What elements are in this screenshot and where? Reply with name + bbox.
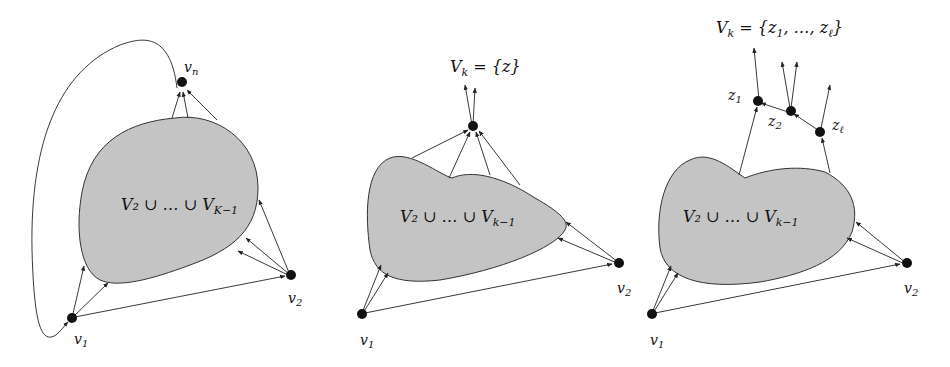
panel-2: Vk = {z} V₂ ∪ … ∪ Vk−1 v1 v2 bbox=[357, 57, 631, 350]
label-v2: v2 bbox=[904, 280, 918, 298]
label-vn: vn bbox=[184, 59, 198, 77]
label-z2: z2 bbox=[767, 113, 782, 131]
label-v1: v1 bbox=[650, 332, 664, 350]
node-v1 bbox=[647, 309, 657, 319]
node-vn bbox=[177, 77, 187, 87]
node-v2 bbox=[614, 258, 624, 268]
panel-2-title: Vk = {z} bbox=[450, 57, 521, 79]
node-v1 bbox=[357, 309, 367, 319]
label-v1: v1 bbox=[360, 332, 374, 350]
panel-1: V₂ ∪ … ∪ VK−1 vn v1 v2 bbox=[32, 40, 302, 349]
node-v2 bbox=[902, 258, 912, 268]
label-v2: v2 bbox=[617, 280, 631, 298]
label-v1: v1 bbox=[74, 331, 88, 349]
panel-3: Vk = {z1, …, zℓ} V₂ ∪ … ∪ Vk−1 z1 z2 zℓ … bbox=[647, 18, 918, 350]
graph-figure: V₂ ∪ … ∪ VK−1 vn v1 v2 Vk = {z} V₂ ∪ … ∪… bbox=[0, 0, 950, 367]
node-zl bbox=[815, 127, 825, 137]
node-v2 bbox=[286, 270, 296, 280]
panel-3-title: Vk = {z1, …, zℓ} bbox=[716, 18, 843, 40]
label-zl: zℓ bbox=[831, 117, 844, 135]
label-v2: v2 bbox=[288, 290, 302, 308]
node-z2 bbox=[786, 106, 796, 116]
node-z bbox=[468, 121, 478, 131]
label-z1: z1 bbox=[727, 87, 742, 105]
node-z1 bbox=[753, 96, 763, 106]
node-v1 bbox=[67, 313, 77, 323]
